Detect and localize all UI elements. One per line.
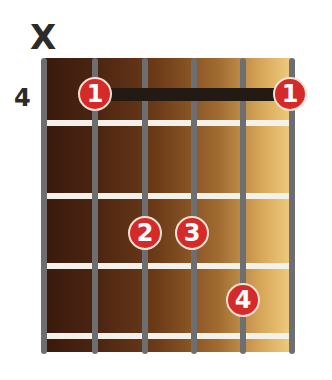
string-4 (191, 58, 197, 354)
starting-fret-label: 4 (14, 84, 31, 112)
finger-dot: 1 (273, 77, 307, 111)
fret-line-2 (44, 193, 292, 199)
fret-line-3 (44, 263, 292, 269)
fret-line-4 (44, 333, 292, 339)
finger-dot: 4 (226, 283, 260, 317)
finger-dot: 3 (175, 216, 209, 250)
finger-dot: 2 (128, 216, 162, 250)
string-1 (41, 58, 47, 354)
muted-string-marker: X (30, 20, 56, 54)
fret-line-1 (44, 120, 292, 126)
finger-dot: 1 (78, 77, 112, 111)
string-3 (142, 58, 148, 354)
barre-bar (110, 88, 278, 101)
